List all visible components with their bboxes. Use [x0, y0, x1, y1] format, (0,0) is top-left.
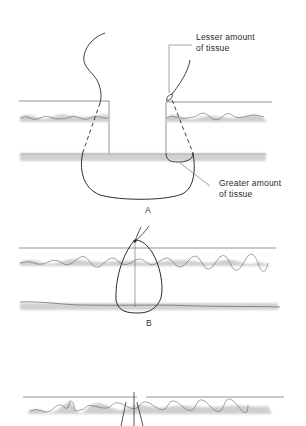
label-lesser-amount: Lesser amount of tissue [196, 32, 255, 53]
suture-loop [116, 240, 162, 313]
label-line-2: of tissue [196, 43, 255, 54]
panel-letter-a: A [145, 205, 151, 215]
label-line-2: of tissue [219, 189, 281, 200]
suture-strand-right [172, 60, 190, 94]
suture-end-right [135, 226, 149, 241]
suture-path-left-dashed [83, 103, 100, 152]
leader-lesser [169, 45, 192, 93]
dermis-layer-shade [20, 259, 272, 266]
panel-c-drawing [23, 392, 284, 426]
label-greater-amount: Greater amount of tissue [219, 178, 281, 199]
panel-letter-b: B [146, 318, 152, 328]
dermis-layer-shade [20, 114, 268, 122]
suture-strand-left [84, 33, 105, 103]
leader-greater [180, 163, 210, 186]
panel-b-drawing [19, 226, 280, 313]
label-line-1: Greater amount [219, 178, 281, 189]
suture-diagram [0, 0, 306, 426]
panel-a-drawing [19, 33, 272, 199]
label-line-1: Lesser amount [196, 32, 255, 43]
suture-path-right-dashed [172, 100, 193, 153]
suture-knot-right [167, 94, 172, 101]
